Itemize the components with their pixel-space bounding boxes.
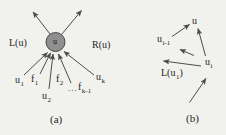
node-u-label: u: [53, 38, 57, 46]
label-fk-1: fk-1: [78, 81, 91, 94]
label-f1: f1: [31, 73, 38, 86]
edge-a-in-u1: [24, 53, 48, 76]
label-b-ui-1: ui-1: [157, 33, 170, 46]
edge-a-out-right: [62, 11, 82, 35]
edge-b-in-ui: [190, 79, 207, 103]
paper-figure: u L(u) R(u) u1 f1 u2 f2 ... fk-1 uk (a) …: [0, 0, 226, 135]
label-f2: f2: [56, 73, 63, 86]
left-region-label: L(u): [9, 37, 27, 48]
edge-b-ui1-u: [172, 25, 190, 37]
label-b-ui: ui: [205, 56, 212, 69]
right-region-label: R(u): [92, 39, 110, 50]
ellipsis-label: ...: [68, 83, 78, 94]
label-b-lu1: L(u1): [161, 67, 183, 80]
edge-a-in-2: [40, 53, 51, 74]
label-u2: u2: [42, 90, 51, 103]
edge-a-out-left: [33, 12, 50, 34]
edge-a-in-u2: [49, 54, 53, 89]
edge-b-ui-left2: [164, 61, 202, 66]
edge-b-ui-u: [198, 29, 206, 57]
caption-a: (a): [50, 114, 62, 125]
label-u1: u1: [15, 74, 24, 87]
label-uk: uk: [96, 71, 105, 84]
edge-b-ui-left1: [180, 50, 194, 56]
edge-a-in-uk: [64, 52, 94, 76]
label-b-u: u: [192, 15, 198, 28]
caption-b: (b): [186, 113, 199, 124]
